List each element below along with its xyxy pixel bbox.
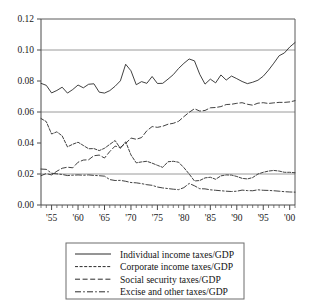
y-axis-tick-label: 0.02 — [17, 169, 34, 179]
x-axis-tick-label: '85 — [205, 213, 216, 223]
x-axis-tick-label: '80 — [178, 213, 189, 223]
y-axis-tick-label: 0.04 — [17, 138, 34, 148]
x-axis-tick-label: '70 — [125, 213, 136, 223]
x-axis-tick-label: '00 — [284, 213, 295, 223]
y-axis-ticks-group — [37, 19, 41, 205]
legend-label: Individual income taxes/GDP — [120, 249, 234, 260]
chart-legend: Individual income taxes/GDPCorporate inc… — [66, 243, 244, 299]
x-axis-labels-group: '55'60'65'70'75'80'85'90'95'00 — [46, 213, 296, 223]
y-axis-tick-label: 0.12 — [17, 14, 34, 24]
y-axis-tick-label: 0.06 — [17, 107, 34, 117]
x-axis-tick-label: '65 — [99, 213, 110, 223]
y-axis-tick-label: 0.00 — [17, 200, 34, 210]
y-axis-tick-label: 0.08 — [17, 76, 34, 86]
x-axis-tick-label: '60 — [72, 213, 83, 223]
x-axis-tick-label: '75 — [152, 213, 163, 223]
x-axis-tick-label: '90 — [231, 213, 242, 223]
y-axis-labels-group: 0.000.020.040.060.080.100.12 — [17, 14, 34, 210]
tax-revenue-share-chart: 0.000.020.040.060.080.100.12 '55'60'65'7… — [0, 0, 309, 307]
legend-label: Corporate income taxes/GDP — [120, 261, 233, 272]
x-axis-tick-label: '55 — [46, 213, 57, 223]
x-axis-ticks-group — [52, 205, 290, 210]
legend-label: Social security taxes/GDP — [120, 274, 221, 285]
x-axis-tick-label: '95 — [258, 213, 269, 223]
y-axis-tick-label: 0.10 — [17, 45, 34, 55]
legend-label: Excise and other taxes/GDP — [120, 286, 228, 297]
chart-svg: 0.000.020.040.060.080.100.12 '55'60'65'7… — [0, 0, 309, 307]
